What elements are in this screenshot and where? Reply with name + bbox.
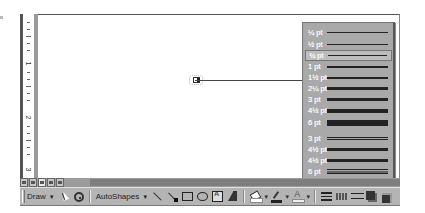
draw-menu-button[interactable]: Draw ▼ (25, 189, 57, 204)
line-tool-icon[interactable] (151, 190, 164, 203)
autoshapes-label: AutoShapes (96, 192, 140, 201)
line-sample (327, 98, 388, 101)
fill-color-icon[interactable] (249, 190, 262, 203)
normal-view-button[interactable] (20, 178, 28, 187)
line-sample (327, 77, 388, 79)
line-style-option[interactable]: 3 pt (305, 94, 392, 105)
ruler-tick (27, 100, 30, 101)
fill-color-dropdown-icon[interactable]: ▼ (263, 194, 269, 200)
line-sample (327, 44, 388, 45)
line-style-label: 6 pt (305, 167, 327, 176)
line-style-option[interactable]: 4½ pt (305, 105, 392, 116)
ruler-tick (26, 140, 31, 141)
line-style-label: 1½ pt (305, 73, 327, 82)
ruler-tick (27, 133, 30, 134)
line-sample (327, 120, 388, 126)
toolbar-separator (314, 190, 316, 203)
line-style-label: ¼ pt (305, 28, 327, 37)
line-style-label: 4½ pt (305, 156, 327, 165)
web-layout-view-button[interactable] (29, 178, 37, 187)
font-color-dropdown-icon[interactable]: ▼ (305, 194, 311, 200)
line-sample (327, 87, 388, 90)
horizontal-scrollbar[interactable] (90, 179, 400, 186)
arrow-style-icon[interactable] (350, 190, 363, 203)
line-sample (328, 55, 387, 56)
draw-label: Draw (27, 192, 46, 201)
margin-mark (0, 16, 3, 19)
toolbar-separator (89, 190, 91, 203)
line-sample (327, 109, 388, 113)
dropdown-arrow-icon: ▼ (49, 194, 55, 200)
oval-tool-button[interactable] (196, 190, 209, 203)
select-objects-icon[interactable] (58, 190, 71, 203)
ruler-tick (27, 22, 30, 23)
double-line-sample (327, 137, 388, 140)
web-layout-icon (31, 181, 35, 184)
ruler-tick (27, 72, 30, 73)
line-color-dropdown-icon[interactable]: ▼ (284, 194, 290, 200)
line-style-option-selected[interactable]: ¾ pt (305, 50, 392, 61)
line-style-menu: ¼ pt ½ pt ¾ pt 1 pt 1½ pt 2¼ pt 3 pt 4½ … (302, 22, 395, 191)
triple-line-sample (327, 169, 388, 174)
ruler-tick (27, 147, 30, 148)
line-style-label: ¾ pt (306, 51, 328, 60)
line-style-option[interactable]: 1½ pt (305, 72, 392, 83)
line-style-label: 3 pt (305, 95, 327, 104)
outline-icon (49, 181, 53, 184)
line-style-icon[interactable] (320, 190, 333, 203)
view-bar (20, 178, 400, 187)
text-box-button[interactable] (211, 190, 224, 203)
line-style-option[interactable]: 4½ pt (305, 144, 392, 155)
line-style-label: 6 pt (305, 118, 327, 127)
line-style-option[interactable]: ¼ pt (305, 27, 392, 38)
3d-style-icon[interactable] (380, 190, 393, 203)
ruler-number: 3 (25, 165, 32, 174)
double-line-sample (327, 148, 388, 151)
ruler-tick (27, 93, 30, 94)
font-color-icon[interactable] (291, 190, 304, 203)
double-line-sample (327, 159, 388, 162)
ruler-tick (27, 29, 30, 30)
ruler-tick (26, 36, 31, 37)
line-style-label: 4½ pt (305, 106, 327, 115)
line-style-option[interactable]: 3 pt (305, 133, 392, 144)
text-box-icon (212, 191, 223, 202)
rectangle-tool-button[interactable] (181, 190, 194, 203)
ruler-number: 1 (25, 59, 32, 68)
outline-view-button[interactable] (47, 178, 55, 187)
line-style-option[interactable]: 4½ pt (305, 155, 392, 166)
print-layout-icon (40, 181, 44, 184)
reading-view-button[interactable] (56, 178, 64, 187)
normal-view-icon (22, 181, 26, 184)
ruler-number: 2 (25, 113, 32, 122)
autoshapes-menu-button[interactable]: AutoShapes ▼ (94, 189, 151, 204)
ruler-tick (27, 79, 30, 80)
line-style-option[interactable]: 6 pt (305, 117, 392, 128)
line-color-icon[interactable] (270, 190, 283, 203)
line-style-label: 4½ pt (305, 145, 327, 154)
line-style-label: ½ pt (305, 40, 327, 49)
dropdown-arrow-icon: ▼ (142, 194, 148, 200)
shadow-style-icon[interactable] (365, 190, 378, 203)
line-style-option[interactable]: 1 pt (305, 61, 392, 72)
vertical-ruler[interactable]: 1 2 3 (20, 14, 38, 178)
ruler-tick (26, 86, 31, 87)
ruler-tick (27, 126, 30, 127)
arrow-tool-icon[interactable] (166, 190, 179, 203)
ruler-tick (27, 50, 30, 51)
free-rotate-icon[interactable] (74, 192, 84, 202)
line-style-label: 3 pt (305, 134, 327, 143)
wordart-icon[interactable] (226, 190, 239, 203)
line-sample (327, 66, 388, 68)
line-style-option[interactable]: 6 pt (305, 166, 392, 177)
print-layout-view-button[interactable] (38, 178, 46, 187)
oval-icon (197, 192, 208, 201)
line-style-option[interactable]: 2¼ pt (305, 83, 392, 94)
ruler-tick (27, 154, 30, 155)
reading-icon (58, 181, 62, 184)
line-style-label: 2¼ pt (305, 84, 327, 93)
toolbar-separator (243, 190, 245, 203)
dash-style-icon[interactable] (335, 190, 348, 203)
ruler-tick (27, 43, 30, 44)
line-style-option[interactable]: ½ pt (305, 39, 392, 50)
